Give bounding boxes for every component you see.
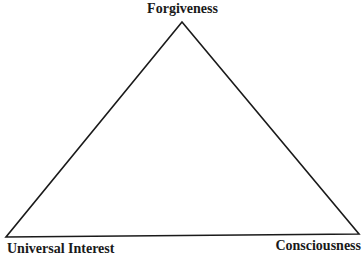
triangle-shape <box>0 0 363 261</box>
vertex-label-forgiveness: Forgiveness <box>0 1 363 17</box>
triangle-outline <box>6 22 359 237</box>
vertex-label-universal-interest: Universal Interest <box>7 241 114 257</box>
vertex-label-consciousness: Consciousness <box>275 238 361 254</box>
